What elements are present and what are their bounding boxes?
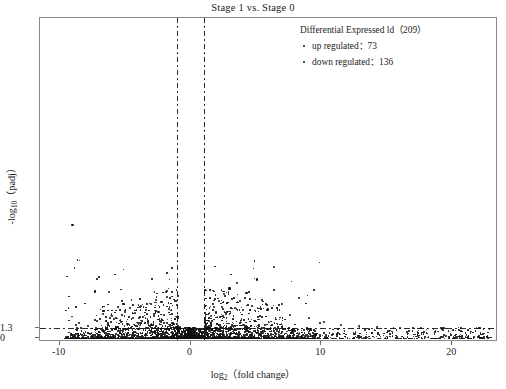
data-point xyxy=(206,309,208,311)
data-point xyxy=(469,338,471,340)
data-point xyxy=(171,320,173,322)
data-point xyxy=(199,330,201,332)
data-point xyxy=(226,335,228,337)
data-point xyxy=(134,312,136,314)
data-point xyxy=(240,325,242,327)
data-point xyxy=(96,315,98,317)
data-point xyxy=(371,332,373,334)
data-point xyxy=(226,323,228,325)
data-point xyxy=(147,335,149,337)
data-point xyxy=(173,334,175,336)
data-point xyxy=(217,330,219,332)
data-point xyxy=(443,334,445,336)
data-point xyxy=(345,337,347,339)
data-point xyxy=(158,315,160,317)
data-point xyxy=(230,338,232,340)
data-point xyxy=(170,314,172,316)
data-point xyxy=(166,290,168,292)
data-point xyxy=(269,331,271,333)
data-point xyxy=(380,336,382,338)
data-point xyxy=(264,327,266,329)
data-point xyxy=(126,321,128,323)
y-axis-tick xyxy=(35,337,39,338)
data-point xyxy=(171,291,173,293)
data-point xyxy=(238,334,240,336)
data-point xyxy=(64,338,66,340)
data-point xyxy=(163,314,165,316)
data-point xyxy=(114,274,116,276)
data-point xyxy=(110,321,112,323)
data-point xyxy=(236,321,238,323)
data-point xyxy=(119,309,121,311)
x-axis-title-main: log xyxy=(211,369,224,380)
data-point xyxy=(129,338,131,340)
volcano-plot-figure: Stage 1 vs. Stage 0 Differential Express… xyxy=(0,0,506,389)
data-point xyxy=(222,338,224,340)
data-point xyxy=(239,300,241,302)
data-point xyxy=(387,336,389,338)
data-point xyxy=(281,338,283,340)
data-point xyxy=(263,332,265,334)
data-point xyxy=(323,321,325,323)
data-point xyxy=(455,330,457,332)
data-point xyxy=(249,328,251,330)
data-point xyxy=(279,319,281,321)
data-point xyxy=(303,329,305,331)
data-point xyxy=(233,315,235,317)
y-axis-title-main: -log xyxy=(6,208,17,224)
data-point xyxy=(116,322,118,324)
data-point xyxy=(248,313,250,315)
data-point xyxy=(246,334,248,336)
data-point xyxy=(208,338,210,340)
data-point xyxy=(282,328,284,330)
data-point xyxy=(179,338,181,340)
data-point xyxy=(127,338,129,340)
data-point xyxy=(209,307,211,309)
data-point xyxy=(68,320,70,322)
data-point xyxy=(79,260,81,262)
data-point xyxy=(127,332,129,334)
data-point xyxy=(83,335,85,337)
data-point xyxy=(365,336,367,338)
data-point xyxy=(298,297,300,299)
data-point xyxy=(476,327,478,329)
data-point xyxy=(424,338,426,340)
data-point xyxy=(213,319,215,321)
x-axis-tick-label: 0 xyxy=(187,346,192,357)
data-point xyxy=(94,338,96,340)
data-point xyxy=(389,336,391,338)
data-point xyxy=(291,281,293,283)
data-point xyxy=(307,295,309,297)
data-point xyxy=(125,338,127,340)
legend-marker-icon xyxy=(303,61,305,63)
data-point xyxy=(278,304,280,306)
data-point xyxy=(253,268,255,270)
data-point xyxy=(213,333,215,335)
data-point xyxy=(249,321,251,323)
data-point xyxy=(332,329,334,331)
data-point xyxy=(161,334,163,336)
data-point xyxy=(421,338,423,340)
data-point xyxy=(471,338,473,340)
data-point xyxy=(237,328,239,330)
data-point xyxy=(90,328,92,330)
data-point xyxy=(488,338,490,340)
data-point xyxy=(141,322,143,324)
data-point xyxy=(146,303,148,305)
data-point xyxy=(98,276,100,278)
data-point xyxy=(418,332,420,334)
data-point xyxy=(245,338,247,340)
data-point xyxy=(85,338,87,340)
data-point xyxy=(228,293,230,295)
data-point xyxy=(265,316,267,318)
data-point xyxy=(289,314,291,316)
data-point xyxy=(169,306,171,308)
data-point xyxy=(440,338,442,340)
data-point xyxy=(127,319,129,321)
data-point xyxy=(204,317,206,319)
data-point xyxy=(213,306,215,308)
data-point xyxy=(266,324,268,326)
data-point xyxy=(482,333,484,335)
data-point xyxy=(452,329,454,331)
data-point xyxy=(71,316,73,318)
